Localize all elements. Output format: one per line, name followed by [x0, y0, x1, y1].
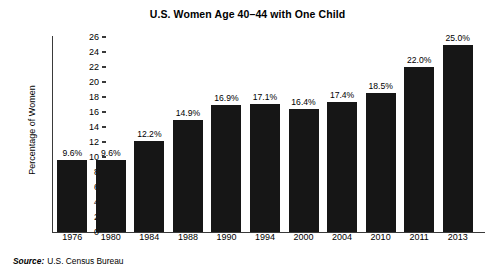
bar-value-label: 9.6% [89, 148, 133, 158]
plot-area: 26242220181614121086420 9.6%19769.6%1980… [53, 37, 485, 232]
bar-value-label: 17.4% [320, 90, 364, 100]
chart-figure: U.S. Women Age 40–44 with One Child Perc… [0, 0, 495, 274]
source-label: Source: [13, 256, 44, 266]
bar-value-label: 22.0% [397, 55, 441, 65]
bar [57, 160, 87, 232]
bar [289, 109, 319, 232]
bar-group: 17.4%2004 [327, 37, 357, 232]
bar-group: 12.2%1984 [134, 37, 164, 232]
source-note: Source:U.S. Census Bureau [13, 256, 124, 266]
bar-group: 14.9%1988 [173, 37, 203, 232]
bar [134, 141, 164, 233]
bar-value-label: 25.0% [436, 33, 480, 43]
bar-value-label: 12.2% [127, 129, 171, 139]
bar [96, 160, 126, 232]
bar-group: 25.0%2013 [443, 37, 473, 232]
bar-group: 9.6%1976 [57, 37, 87, 232]
bar [366, 93, 396, 232]
bar-group: 17.1%1994 [250, 37, 280, 232]
x-tick-label: 2013 [434, 232, 482, 242]
bar [404, 67, 434, 232]
bar-value-label: 16.4% [282, 97, 326, 107]
bar-value-label: 9.6% [50, 148, 94, 158]
bar-value-label: 18.5% [359, 81, 403, 91]
bar-value-label: 14.9% [166, 108, 210, 118]
bar-group: 16.9%1990 [211, 37, 241, 232]
bar [211, 105, 241, 232]
chart-title: U.S. Women Age 40–44 with One Child [0, 8, 495, 20]
bar-group: 18.5%2010 [366, 37, 396, 232]
bar [327, 102, 357, 233]
bar [173, 120, 203, 232]
bar [443, 45, 473, 233]
bar-value-label: 17.1% [243, 92, 287, 102]
bar-group: 9.6%1980 [96, 37, 126, 232]
bar-group: 16.4%2000 [289, 37, 319, 232]
source-text: U.S. Census Bureau [47, 256, 123, 266]
bar [250, 104, 280, 232]
bar-group: 22.0%2011 [404, 37, 434, 232]
bar-value-label: 16.9% [204, 93, 248, 103]
y-axis-title: Percentage of Women [27, 50, 37, 210]
